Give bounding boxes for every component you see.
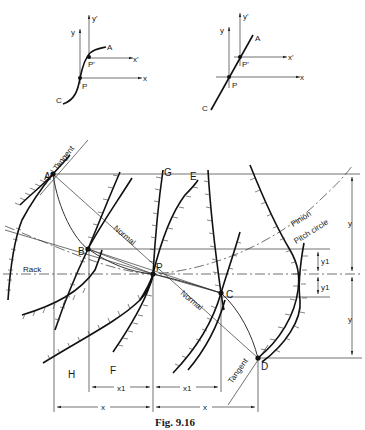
point-p [150, 271, 155, 276]
label-c: C [226, 289, 233, 300]
label-x: x [143, 74, 147, 83]
label-normal-bottom: Normal [179, 289, 205, 313]
label-dim-y1-upper: y1 [321, 257, 330, 266]
tangent-line-a [40, 140, 88, 195]
label-tangent-bottom: Tangent [226, 356, 250, 385]
label-dim-x-right: x [203, 403, 207, 412]
label-a: A [44, 171, 51, 182]
label-p: P [232, 81, 237, 90]
label-b: B [78, 246, 85, 257]
point-a [50, 171, 55, 176]
tooth-profile-c-lower2 [188, 300, 225, 370]
label-y: y [220, 26, 224, 35]
gear-tooth-diagram: x y x' y' A C P P' x y x' y' A C P P' [0, 0, 365, 430]
curve-cap [63, 47, 106, 104]
point-c [218, 290, 223, 295]
hatch-tooth-b [23, 175, 118, 320]
point-d [255, 355, 260, 360]
tooth-profile-c-right [221, 232, 240, 293]
label-dim-y-upper: y [348, 219, 352, 228]
label-y: y [71, 28, 75, 37]
hatch-tooth-d [250, 178, 308, 352]
tooth-profile-a-lower [8, 174, 53, 300]
label-p: P [156, 262, 163, 273]
label-a: A [107, 43, 113, 52]
point-p [78, 76, 82, 80]
label-dim-y-lower: y [348, 315, 352, 324]
inset-left: x y x' y' A C P P' [56, 14, 147, 105]
label-rack: Rack [23, 265, 42, 274]
label-dim-x1-left: x1 [117, 384, 126, 393]
label-f: F [110, 365, 116, 376]
label-d: D [261, 361, 268, 372]
label-c: C [56, 96, 62, 105]
label-g: G [164, 167, 172, 178]
label-e: E [190, 171, 197, 182]
label-dim-x1-right: x1 [183, 384, 192, 393]
label-y-prime: y' [243, 12, 249, 21]
main-diagram: A B P C D G E H F Tangent Tangent Normal… [3, 140, 362, 412]
label-p-prime: P' [88, 60, 95, 69]
label-y-prime: y' [92, 14, 98, 23]
label-pinion: Pinion [289, 209, 313, 228]
label-a: A [255, 34, 261, 43]
point-p-prime [238, 55, 242, 59]
label-x: x [300, 73, 304, 82]
label-h: H [68, 369, 75, 380]
tooth-profile-g [153, 170, 163, 274]
tooth-profile-d-inner [262, 243, 304, 362]
label-c: C [202, 104, 208, 113]
label-x-prime: x' [133, 55, 139, 64]
label-dim-y1-lower: y1 [321, 283, 330, 292]
hatch-tooth-c [175, 181, 241, 366]
point-p [227, 75, 231, 79]
label-x-prime: x' [288, 53, 294, 62]
point-b [85, 246, 90, 251]
label-p-prime: P' [242, 60, 249, 69]
inset-right: x y x' y' A C P P' [202, 12, 304, 113]
label-normal-top: Normal [112, 224, 138, 248]
figure-caption: Fig. 9.16 [155, 416, 196, 428]
point-p-prime [87, 55, 91, 59]
label-p: P [82, 82, 87, 91]
straight-line [211, 35, 253, 110]
label-dim-x-left: x [101, 403, 105, 412]
